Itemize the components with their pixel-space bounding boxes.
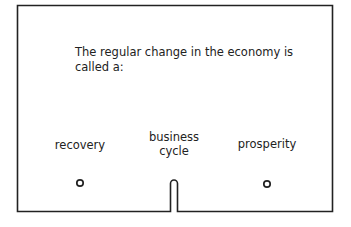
answer-card-outline — [0, 0, 351, 227]
hole-prosperity-icon[interactable] — [264, 181, 270, 187]
hole-recovery-icon[interactable] — [77, 180, 83, 186]
question-text: The regular change in the economy is cal… — [75, 45, 305, 75]
option-label-line1: business — [129, 130, 219, 144]
option-label-line2: cycle — [129, 144, 219, 158]
option-business-cycle: business cycle — [129, 130, 219, 158]
option-label: recovery — [55, 138, 105, 152]
option-recovery: recovery — [35, 138, 125, 152]
option-label: prosperity — [238, 137, 296, 151]
option-prosperity: prosperity — [222, 137, 312, 151]
